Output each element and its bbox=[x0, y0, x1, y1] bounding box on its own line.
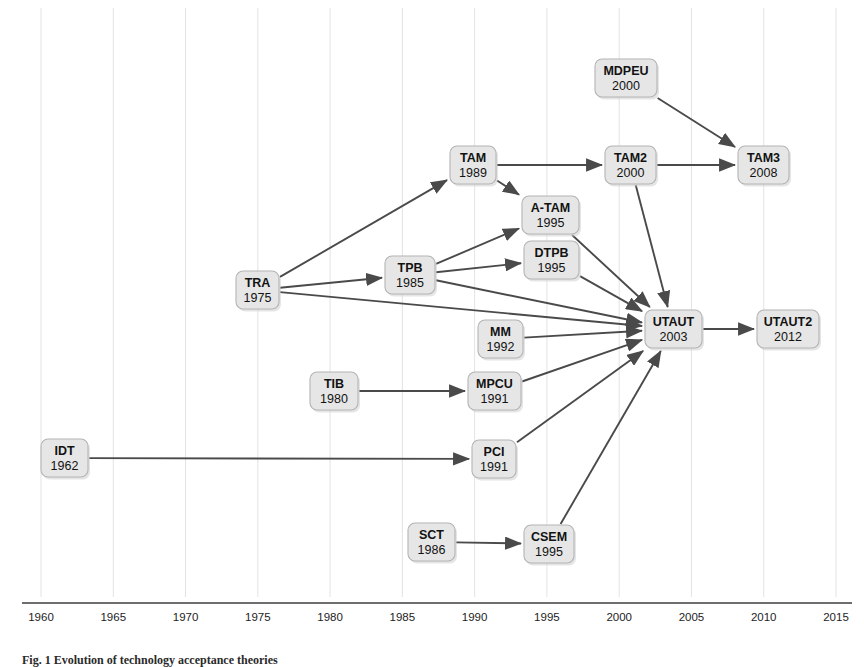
node-utaut2[interactable]: UTAUT22012 bbox=[757, 310, 821, 351]
edge-idt-to-pci bbox=[89, 458, 469, 459]
node-label: TIB bbox=[324, 377, 344, 391]
axis-tick-label-2005: 2005 bbox=[679, 611, 705, 623]
node-label: TAM2 bbox=[614, 151, 647, 165]
edge-tpb-to-dtpb bbox=[436, 263, 521, 272]
node-year: 1986 bbox=[418, 543, 446, 557]
node-tra[interactable]: TRA1975 bbox=[236, 271, 281, 312]
node-label: TAM3 bbox=[747, 151, 780, 165]
node-label: MDPEU bbox=[603, 64, 648, 78]
node-year: 2008 bbox=[750, 166, 778, 180]
node-year: 1995 bbox=[537, 216, 565, 230]
node-label: DTPB bbox=[534, 246, 568, 260]
edge-mm-to-utaut bbox=[524, 331, 642, 338]
node-year: 2000 bbox=[617, 166, 645, 180]
node-year: 1985 bbox=[396, 276, 424, 290]
axis-tick-label-1965: 1965 bbox=[100, 611, 126, 623]
axis-tick-label-2010: 2010 bbox=[751, 611, 777, 623]
node-year: 1995 bbox=[538, 261, 566, 275]
nodes-layer: IDT1962TRA1975TIB1980TPB1985SCT1986TAM19… bbox=[41, 59, 821, 566]
node-year: 1991 bbox=[480, 460, 508, 474]
edge-sct-to-csem bbox=[456, 542, 521, 543]
gridlines bbox=[41, 8, 836, 597]
edge-tra-to-utaut bbox=[280, 292, 642, 326]
edge-tam2-to-utaut bbox=[636, 185, 668, 307]
node-label: TPB bbox=[398, 261, 423, 275]
node-year: 2003 bbox=[660, 330, 688, 344]
node-a-tam[interactable]: A-TAM1995 bbox=[522, 196, 581, 237]
node-year: 1992 bbox=[487, 340, 515, 354]
edge-pci-to-utaut bbox=[517, 351, 643, 442]
node-year: 1975 bbox=[244, 291, 272, 305]
node-tib[interactable]: TIB1980 bbox=[310, 372, 360, 413]
node-year: 1962 bbox=[51, 459, 79, 473]
node-idt[interactable]: IDT1962 bbox=[41, 439, 90, 480]
axis-tick-label-1985: 1985 bbox=[390, 611, 416, 623]
node-tam2[interactable]: TAM22000 bbox=[605, 146, 658, 187]
node-year: 2000 bbox=[612, 79, 640, 93]
node-label: SCT bbox=[419, 528, 444, 542]
node-label: IDT bbox=[54, 444, 75, 458]
node-utaut[interactable]: UTAUT2003 bbox=[645, 310, 704, 351]
edge-tra-to-tpb bbox=[280, 278, 382, 288]
node-label: UTAUT bbox=[653, 315, 695, 329]
edge-mdpeu-to-tam3 bbox=[658, 98, 735, 147]
axis-tick-label-1990: 1990 bbox=[462, 611, 488, 623]
node-sct[interactable]: SCT1986 bbox=[408, 523, 457, 564]
node-label: MM bbox=[490, 325, 511, 339]
node-year: 2012 bbox=[774, 330, 802, 344]
edge-tam-to-a-tam bbox=[497, 181, 519, 195]
edge-mpcu-to-utaut bbox=[522, 340, 642, 382]
node-year: 1989 bbox=[459, 166, 487, 180]
axis-tick-label-1970: 1970 bbox=[173, 611, 199, 623]
edge-csem-to-utaut bbox=[561, 351, 661, 524]
axis-tick-label-2000: 2000 bbox=[606, 611, 632, 623]
node-label: A-TAM bbox=[531, 201, 570, 215]
node-label: MPCU bbox=[476, 377, 513, 391]
axis-tick-label-1975: 1975 bbox=[245, 611, 271, 623]
node-year: 1995 bbox=[535, 545, 563, 559]
node-year: 1991 bbox=[481, 392, 509, 406]
node-tam[interactable]: TAM1989 bbox=[450, 146, 498, 187]
node-tam3[interactable]: TAM32008 bbox=[738, 146, 791, 187]
node-label: CSEM bbox=[531, 530, 567, 544]
node-csem[interactable]: CSEM1995 bbox=[524, 525, 576, 566]
node-pci[interactable]: PCI1991 bbox=[472, 440, 518, 481]
axis-tick-label-1995: 1995 bbox=[534, 611, 560, 623]
edge-a-tam-to-utaut bbox=[572, 235, 650, 307]
edge-dtpb-to-utaut bbox=[580, 276, 642, 311]
figure-caption: Fig. 1 Evolution of technology acceptanc… bbox=[22, 653, 278, 667]
node-mpcu[interactable]: MPCU1991 bbox=[468, 372, 523, 413]
node-dtpb[interactable]: DTPB1995 bbox=[524, 241, 581, 282]
node-label: UTAUT2 bbox=[764, 315, 812, 329]
axis-tick-label-2015: 2015 bbox=[823, 611, 849, 623]
node-label: TAM bbox=[460, 151, 486, 165]
edge-tpb-to-a-tam bbox=[436, 229, 519, 264]
axis-tick-label-1980: 1980 bbox=[317, 611, 343, 623]
node-mm[interactable]: MM1992 bbox=[478, 320, 525, 361]
axis-tick-label-1960: 1960 bbox=[28, 611, 54, 623]
node-label: PCI bbox=[484, 445, 505, 459]
node-tpb[interactable]: TPB1985 bbox=[385, 256, 437, 297]
node-label: TRA bbox=[245, 276, 271, 290]
time-axis: 1960196519701975198019851990199520002005… bbox=[22, 603, 852, 623]
node-year: 1980 bbox=[320, 392, 348, 406]
node-mdpeu[interactable]: MDPEU2000 bbox=[595, 59, 659, 100]
